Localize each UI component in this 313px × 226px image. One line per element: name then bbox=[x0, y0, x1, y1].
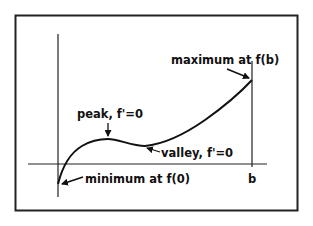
extrema-diagram: maximum at f(b) peak, f'=0 valley, f'=0 … bbox=[0, 0, 313, 226]
maximum-arrow-icon bbox=[227, 69, 249, 78]
minimum-arrow-icon bbox=[62, 177, 83, 184]
maximum-label: maximum at f(b) bbox=[171, 53, 279, 67]
valley-arrow-icon bbox=[147, 148, 160, 152]
minimum-label: minimum at f(0) bbox=[85, 172, 190, 186]
peak-label: peak, f'=0 bbox=[77, 107, 143, 121]
valley-label: valley, f'=0 bbox=[161, 146, 233, 160]
function-curve bbox=[58, 80, 252, 184]
b-label: b bbox=[248, 172, 256, 186]
